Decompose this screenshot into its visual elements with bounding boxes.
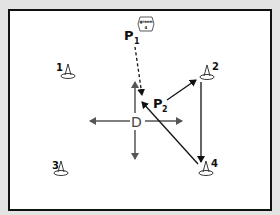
cone-2-label: 2 (212, 61, 219, 72)
field-boundary (9, 10, 271, 210)
field-svg: green 4 P 1 D P 2 (0, 0, 280, 215)
cone-1-label: 1 (56, 62, 63, 73)
player-p2-subscript: 2 (162, 105, 168, 114)
drill-diagram: green 4 P 1 D P 2 (0, 0, 280, 215)
cone-3-label: 3 (52, 160, 59, 171)
ball-label-line2: 4 (145, 25, 148, 30)
player-p1-subscript: 1 (134, 37, 140, 46)
player-p1-letter: P (124, 28, 134, 43)
ball-icon: green 4 (138, 17, 154, 31)
ball-label-line1: green (139, 19, 152, 24)
cone-4-label: 4 (211, 158, 218, 169)
defender-label: D (131, 114, 142, 130)
